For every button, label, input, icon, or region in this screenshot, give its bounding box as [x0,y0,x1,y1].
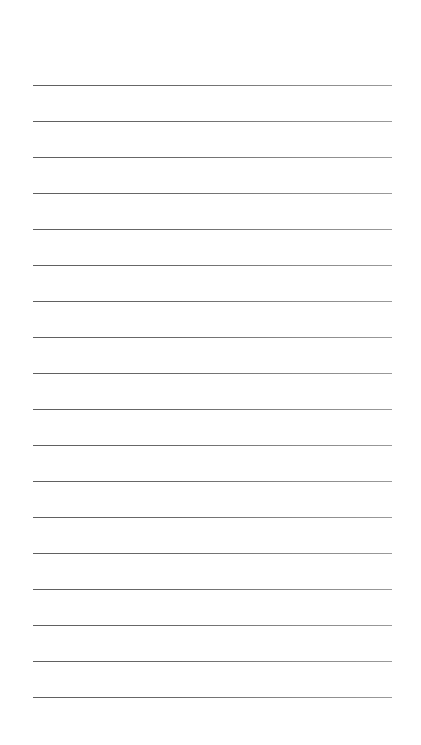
ruled-line [33,193,392,194]
ruled-line [33,85,392,86]
ruled-line [33,157,392,158]
ruled-line [33,229,392,230]
ruled-line [33,301,392,302]
lined-paper-page [0,0,421,745]
ruled-line [33,697,392,698]
ruled-line [33,589,392,590]
ruled-line [33,661,392,662]
ruled-line [33,481,392,482]
ruled-line [33,121,392,122]
ruled-line [33,373,392,374]
ruled-line [33,265,392,266]
ruled-line [33,445,392,446]
ruled-line [33,553,392,554]
ruled-line [33,517,392,518]
ruled-line [33,337,392,338]
ruled-line [33,625,392,626]
ruled-line [33,409,392,410]
